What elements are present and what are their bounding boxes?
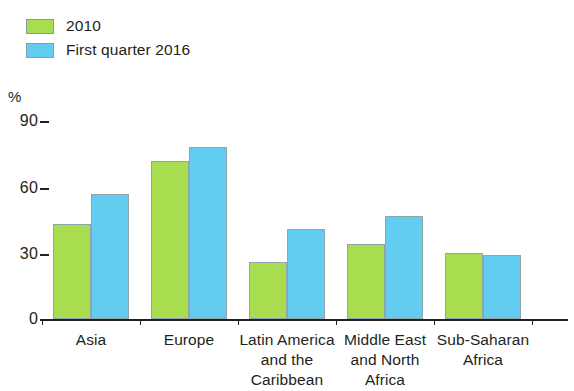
bar-4-2010 <box>347 244 385 319</box>
y-axis-tick-dash-60 <box>40 188 49 190</box>
y-axis-unit-label: % <box>8 88 21 105</box>
bar-1-q1-2016 <box>91 194 129 319</box>
bar-1-2010 <box>53 224 91 319</box>
y-axis-tick-label-90: 90 <box>4 112 38 130</box>
bar-5-q1-2016 <box>483 255 521 319</box>
x-axis-label-5: Sub-SaharanAfrica <box>413 330 553 370</box>
y-axis-tick-label-60: 60 <box>4 179 38 197</box>
x-axis-tick-2 <box>140 319 141 325</box>
y-axis-tick-label-0: 0 <box>4 310 38 328</box>
x-axis-tick-3 <box>238 319 239 325</box>
x-axis-tick-end <box>532 319 533 325</box>
bar-3-q1-2016 <box>287 229 325 319</box>
x-axis-label-line: Africa <box>413 350 553 370</box>
bar-4-q1-2016 <box>385 216 423 319</box>
bar-chart-plot: % 90 60 30 0 AsiaEuropeLatin Americaand … <box>0 0 574 391</box>
y-axis-tick-dash-30 <box>40 254 49 256</box>
x-axis-label-line: Sub-Saharan <box>413 330 553 350</box>
bar-5-2010 <box>445 253 483 319</box>
x-axis-label-line: Africa <box>315 370 455 390</box>
x-axis-tick-5 <box>434 319 435 325</box>
bar-2-q1-2016 <box>189 147 227 319</box>
bar-2-2010 <box>151 161 189 319</box>
x-axis-line <box>44 319 568 321</box>
x-axis-tick-4 <box>336 319 337 325</box>
y-axis-tick-label-30: 30 <box>4 245 38 263</box>
bar-3-2010 <box>249 262 287 319</box>
y-axis-tick-dash-90 <box>40 121 49 123</box>
x-axis-tick-1 <box>42 319 43 325</box>
